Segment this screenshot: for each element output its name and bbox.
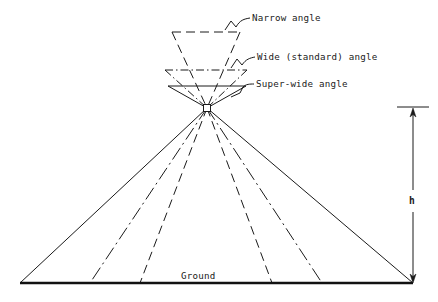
narrow-angle-cone bbox=[140, 32, 272, 283]
wide-angle-left-edge bbox=[165, 70, 207, 108]
narrow-angle-right-ray bbox=[207, 108, 272, 283]
height-dimension: h bbox=[397, 107, 429, 283]
narrow-angle-label: Narrow angle bbox=[252, 12, 321, 23]
apex-node bbox=[204, 105, 211, 112]
superwide-angle-right-ray bbox=[207, 108, 413, 283]
superwide-angle-left-edge bbox=[168, 86, 207, 108]
superwide-angle-left-ray bbox=[20, 108, 207, 283]
ground-label: Ground bbox=[181, 270, 215, 281]
wide-angle-leader-line bbox=[231, 57, 255, 68]
superwide-angle-cone bbox=[20, 86, 413, 283]
camera-angle-diagram: h Narrow angle Wide (standard) angle Sup… bbox=[0, 0, 438, 302]
wide-angle-label: Wide (standard) angle bbox=[257, 51, 377, 62]
narrow-angle-leader-line bbox=[225, 18, 250, 30]
wide-angle-right-ray bbox=[207, 108, 322, 283]
superwide-angle-callout: Super-wide angle bbox=[231, 78, 348, 97]
wide-angle-left-ray bbox=[90, 108, 207, 283]
narrow-angle-left-ray bbox=[140, 108, 207, 283]
diagram-canvas: h Narrow angle Wide (standard) angle Sup… bbox=[0, 0, 438, 302]
narrow-angle-callout: Narrow angle bbox=[225, 12, 321, 30]
height-label: h bbox=[409, 195, 415, 206]
wide-angle-callout: Wide (standard) angle bbox=[231, 51, 377, 68]
superwide-angle-right-edge bbox=[207, 86, 246, 108]
superwide-angle-label: Super-wide angle bbox=[256, 78, 348, 89]
